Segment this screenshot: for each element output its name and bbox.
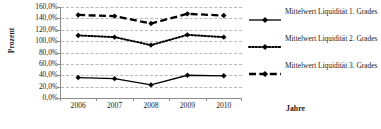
data-point-marker	[76, 75, 81, 80]
legend-item[interactable]: Mittelwert Liquidität 2. Grades	[248, 35, 381, 62]
chart-figure: Prozent 160,0%140,0%120,0%100,0%80,0%60,…	[0, 0, 381, 129]
data-point-marker	[76, 12, 81, 17]
data-point-marker	[221, 34, 226, 39]
x-axis-line	[60, 98, 242, 99]
x-axis-title: Jahre	[286, 104, 305, 113]
data-point-marker	[148, 21, 153, 26]
y-axis-title: Prozent	[7, 13, 16, 69]
legend-marker-icon	[248, 11, 282, 21]
legend-label: Mittelwert Liquidität 3. Grades	[285, 61, 381, 71]
data-point-marker	[112, 76, 117, 81]
x-axis-tick-labels: 20062007200820092010	[60, 101, 242, 115]
legend-label: Mittelwert Liquidität 1. Grades	[285, 7, 381, 17]
data-point-marker	[76, 33, 81, 38]
legend-item[interactable]: Mittelwert Liquidität 3. Grades	[248, 62, 381, 89]
data-point-marker	[148, 42, 153, 47]
data-point-marker	[112, 13, 117, 18]
data-point-marker	[112, 34, 117, 39]
data-point-marker	[185, 73, 190, 78]
legend-label: Mittelwert Liquidität 2. Grades	[285, 34, 381, 44]
y-tick-label: 40,0%	[39, 71, 58, 79]
y-tick-label: 60,0%	[39, 60, 58, 68]
series-layer	[60, 7, 242, 98]
data-point-marker	[185, 32, 190, 37]
data-point-marker	[148, 82, 153, 87]
legend-item[interactable]: Mittelwert Liquidität 1. Grades	[248, 8, 381, 35]
y-tick-label: 20,0%	[39, 83, 58, 91]
y-tick-label: 100,0%	[35, 37, 58, 45]
x-tick-label: 2007	[95, 101, 135, 110]
legend-marker-icon	[248, 65, 282, 75]
x-tick-label: 2006	[58, 101, 98, 110]
data-point-marker	[221, 73, 226, 78]
x-tick-label: 2010	[204, 101, 244, 110]
plot-area	[60, 7, 242, 98]
y-tick-label: 160,0%	[35, 3, 58, 11]
data-point-marker	[221, 13, 226, 18]
y-axis-tick-labels: 160,0%140,0%120,0%100,0%80,0%60,0%40,0%2…	[18, 0, 58, 103]
y-tick-label: 0,0%	[43, 94, 58, 102]
x-tick-label: 2008	[131, 101, 171, 110]
y-tick-label: 80,0%	[39, 49, 58, 57]
data-point-marker	[185, 11, 190, 16]
y-tick-label: 140,0%	[35, 14, 58, 22]
x-tick-label: 2009	[167, 101, 207, 110]
chart-legend: Mittelwert Liquidität 1. GradesMittelwer…	[248, 8, 381, 89]
y-tick-label: 120,0%	[35, 26, 58, 34]
legend-marker-icon	[248, 38, 282, 48]
